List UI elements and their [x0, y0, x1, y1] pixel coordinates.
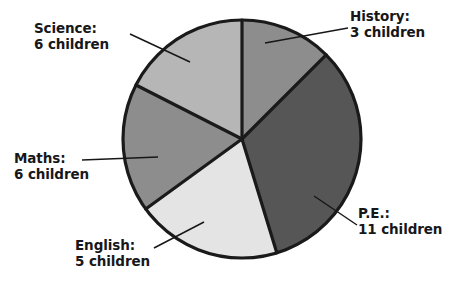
slice-label-history-line2: 3 children [350, 24, 425, 40]
pie-chart-figure: Science: 6 children History: 3 children … [0, 0, 453, 285]
slice-label-maths-line2: 6 children [14, 166, 89, 182]
slice-label-pe-line1: P.E.: [358, 205, 390, 221]
slice-label-science-line1: Science: [34, 20, 97, 36]
slice-label-science: Science: 6 children [34, 20, 109, 52]
slice-label-science-line2: 6 children [34, 36, 109, 52]
slice-label-maths-line1: Maths: [14, 150, 65, 166]
slice-label-english: English: 5 children [75, 237, 150, 269]
slice-label-maths: Maths: 6 children [14, 150, 89, 182]
slice-label-english-line1: English: [75, 237, 135, 253]
slice-label-history: History: 3 children [350, 8, 425, 40]
slice-label-english-line2: 5 children [75, 253, 150, 269]
slice-label-pe-line2: 11 children [358, 221, 442, 237]
slice-label-history-line1: History: [350, 8, 410, 24]
slice-label-pe: P.E.: 11 children [358, 205, 442, 237]
